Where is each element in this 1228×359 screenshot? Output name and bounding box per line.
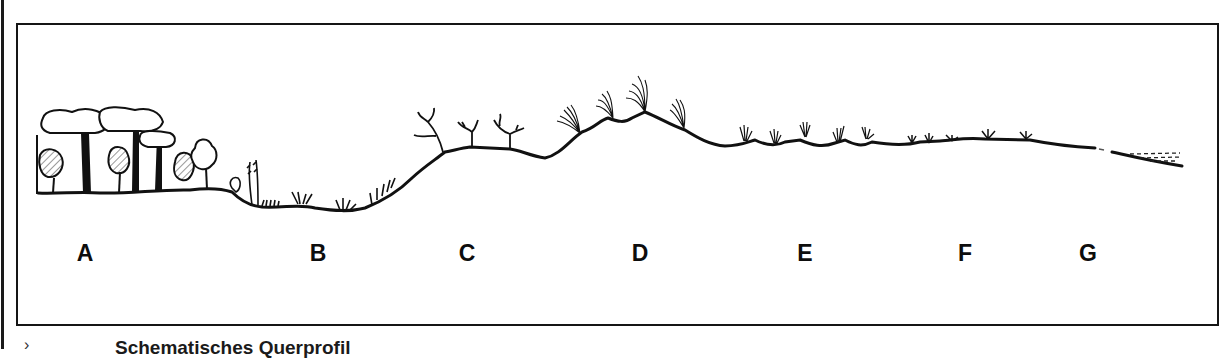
zone-label-g: G — [1079, 240, 1097, 266]
caption-marker-icon: › — [24, 336, 29, 354]
grass-tufts-icon — [740, 122, 874, 143]
figure-caption: Schematisches Querprofil — [115, 337, 350, 359]
zone-label-d: D — [632, 240, 649, 266]
zone-label-e: E — [797, 240, 812, 266]
zone-label-a: A — [77, 240, 94, 266]
zone-label-c: C — [459, 240, 476, 266]
zone-label-f: F — [958, 240, 972, 266]
branching-shrubs-icon — [414, 108, 524, 152]
zone-label-b: B — [310, 240, 327, 266]
grass-tussocks-icon — [557, 76, 685, 133]
forest-trees-icon — [37, 107, 217, 194]
reeds-and-shrubs-icon — [230, 160, 395, 210]
